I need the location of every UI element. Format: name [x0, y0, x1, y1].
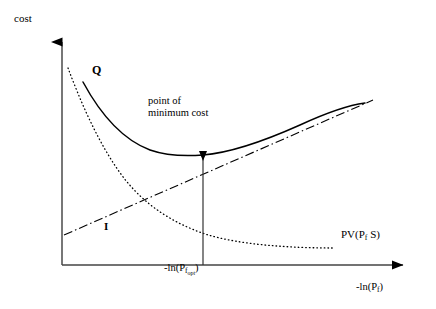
plot-canvas	[0, 0, 436, 309]
curve-label-i: I	[104, 220, 108, 233]
annotation-minimum-cost: point of minimum cost	[148, 95, 208, 120]
curve-i-investment-cost	[64, 100, 373, 235]
x-axis-label-base: -ln(P	[356, 281, 377, 292]
x-axis-label: -ln(Pf)	[356, 281, 383, 295]
curve-label-q: Q	[92, 63, 101, 77]
minimum-point-dot	[201, 153, 205, 157]
y-axis-label: cost	[14, 12, 32, 25]
x-axis-label-close: )	[380, 281, 384, 292]
x-optimum-close: )	[195, 262, 199, 273]
curve-label-pv: PV(Pf S)	[341, 228, 380, 243]
curve-q-total-cost	[83, 82, 365, 156]
curve-label-pv-base: PV(P	[341, 228, 365, 240]
annotation-line-2: minimum cost	[148, 107, 208, 119]
curve-label-pv-close: S)	[367, 228, 380, 240]
x-optimum-tick-label: -ln(Pfopt)	[164, 262, 199, 277]
annotation-line-1: point of	[148, 95, 208, 107]
x-optimum-subscript-opt: opt	[188, 270, 196, 276]
cost-optimization-figure: cost Q I point of minimum cost PV(Pf S) …	[0, 0, 436, 309]
x-optimum-base: -ln(P	[164, 262, 185, 273]
x-optimum-subscript-f: fopt	[185, 266, 195, 275]
